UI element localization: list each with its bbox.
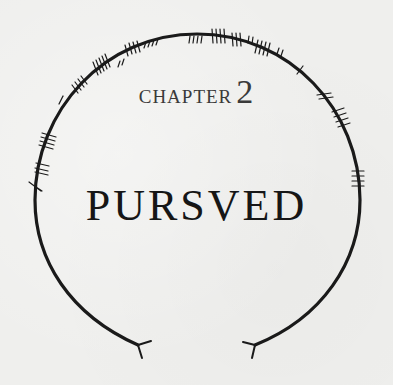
chapter-number: 2 [236, 73, 254, 110]
book-page: CHAPTER2 PURSVED [0, 0, 393, 385]
chapter-word: CHAPTER [139, 79, 233, 109]
chapter-title: PURSVED [0, 180, 393, 231]
chapter-heading: CHAPTER2 [0, 73, 393, 111]
